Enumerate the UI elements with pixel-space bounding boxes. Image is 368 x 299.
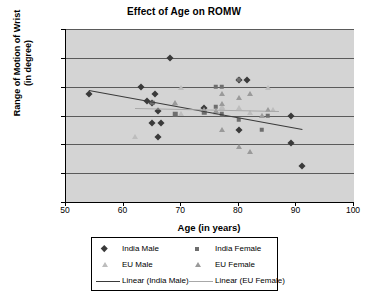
legend-line-icon (189, 281, 213, 282)
data-point (219, 91, 225, 96)
data-point (236, 95, 242, 100)
data-point (172, 100, 178, 105)
chart-figure: Effect of Age on ROMW Range of Motion of… (0, 0, 368, 299)
x-tick-label-70: 70 (168, 205, 192, 215)
data-point (214, 84, 219, 89)
x-axis-line (65, 202, 354, 203)
data-point (137, 83, 144, 90)
x-axis-label: Age (in years) (65, 222, 353, 233)
x-tick-label-90: 90 (283, 205, 307, 215)
data-point (260, 128, 265, 133)
legend-triangle-icon (195, 262, 201, 267)
data-point (155, 134, 162, 141)
x-tick-mark-50 (65, 202, 66, 206)
data-point (219, 101, 225, 106)
data-point (265, 85, 271, 90)
data-point (166, 54, 173, 61)
legend-triangle-icon (102, 262, 108, 267)
data-point (219, 84, 224, 89)
legend-label: India Female (215, 244, 261, 253)
data-point (149, 119, 156, 126)
data-point (287, 112, 294, 119)
y-tick-mark-40 (61, 144, 65, 145)
data-point (157, 119, 164, 126)
data-point (178, 111, 184, 116)
data-point (244, 76, 251, 83)
y-axis-label: Range of Motion of Wrist (in degree) (12, 0, 34, 148)
data-point (287, 139, 294, 146)
data-point (265, 113, 270, 118)
x-tick-mark-70 (180, 202, 181, 206)
x-tick-label-50: 50 (53, 205, 77, 215)
data-point (299, 162, 306, 169)
data-point (259, 113, 265, 118)
gridline-y-40 (66, 144, 354, 145)
x-tick-label-80: 80 (226, 205, 250, 215)
gridline-y-100 (66, 58, 354, 59)
gridline-y-60 (66, 116, 354, 117)
data-point (237, 77, 242, 82)
y-tick-mark-20 (61, 173, 65, 174)
data-point (152, 90, 159, 97)
gridline-y-20 (66, 173, 354, 174)
legend-label: Linear (India Male) (122, 276, 189, 285)
data-point (132, 134, 138, 139)
x-tick-mark-100 (353, 202, 354, 206)
y-axis-label-line2: (in degree) (23, 40, 33, 86)
legend-label: EU Female (215, 260, 255, 269)
x-tick-mark-60 (123, 202, 124, 206)
legend-label: EU Male (122, 260, 153, 269)
y-tick-mark-100 (61, 58, 65, 59)
x-tick-label-60: 60 (111, 205, 135, 215)
x-tick-label-100: 100 (341, 205, 365, 215)
data-point (235, 126, 242, 133)
data-point (247, 91, 253, 96)
legend-square-icon (195, 247, 199, 251)
data-point (178, 85, 184, 90)
data-point (219, 127, 225, 132)
y-tick-mark-80 (61, 87, 65, 88)
x-tick-mark-90 (295, 202, 296, 206)
data-point (236, 144, 242, 149)
legend-diamond-icon (101, 245, 107, 251)
y-axis-label-line1: Range of Motion of Wrist (12, 10, 22, 116)
chart-legend: India MaleIndia FemaleEU MaleEU FemaleLi… (91, 237, 278, 291)
y-tick-mark-120 (61, 29, 65, 30)
y-tick-mark-60 (61, 116, 65, 117)
legend-line-icon (96, 281, 120, 282)
plot-area (65, 29, 354, 202)
gridline-y-120 (66, 29, 354, 30)
data-point (247, 149, 253, 154)
data-point (173, 112, 178, 117)
legend-label: India Male (122, 244, 159, 253)
gridline-y-80 (66, 87, 354, 88)
legend-label: Linear (EU Female) (215, 276, 285, 285)
x-tick-mark-80 (238, 202, 239, 206)
chart-title: Effect of Age on ROMW (0, 6, 368, 17)
